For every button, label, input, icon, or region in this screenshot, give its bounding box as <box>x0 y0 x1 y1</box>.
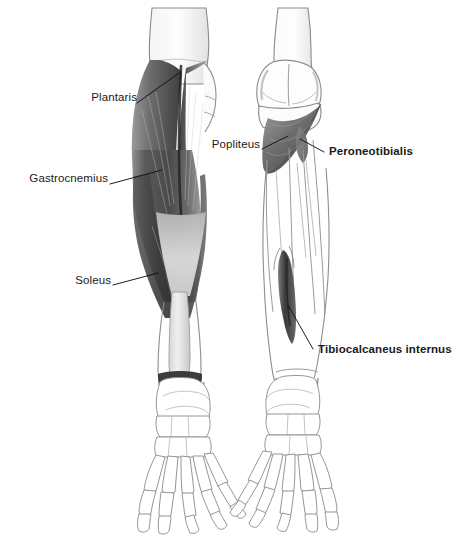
left-leg-view <box>132 8 246 534</box>
anatomical-figure: Plantaris Gastrocnemius Soleus Popliteus… <box>0 0 456 544</box>
label-tibiocalcaneus-internus-text: Tibiocalcaneus internus <box>318 343 452 355</box>
left-foot-skeleton <box>138 377 247 534</box>
label-popliteus: Popliteus <box>150 139 266 151</box>
right-leg-view <box>230 8 339 532</box>
right-foot-skeleton <box>230 375 339 532</box>
label-plantaris-text: Plantaris <box>91 91 137 103</box>
label-gastrocnemius: Gastrocnemius <box>0 173 114 185</box>
label-peroneotibialis-text: Peroneotibialis <box>329 145 413 157</box>
label-gastrocnemius-text: Gastrocnemius <box>29 172 108 184</box>
anatomy-illustration <box>0 0 456 544</box>
label-soleus-text: Soleus <box>75 274 111 286</box>
label-tibiocalcaneus-internus: Tibiocalcaneus internus <box>318 344 452 356</box>
label-popliteus-text: Popliteus <box>212 138 260 150</box>
label-plantaris: Plantaris <box>0 92 143 104</box>
label-soleus: Soleus <box>0 275 117 287</box>
label-peroneotibialis: Peroneotibialis <box>329 146 413 158</box>
achilles-tendon <box>169 292 190 380</box>
left-knee-contour <box>203 62 216 132</box>
